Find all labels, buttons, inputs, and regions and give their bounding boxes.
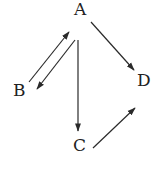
node-c-label: C (73, 137, 86, 154)
node-a-label: A (74, 1, 86, 18)
node-d-label: D (137, 72, 151, 89)
edge-a-to-d (91, 22, 134, 70)
node-b-label: B (13, 82, 26, 99)
edge-c-to-d (93, 108, 135, 148)
